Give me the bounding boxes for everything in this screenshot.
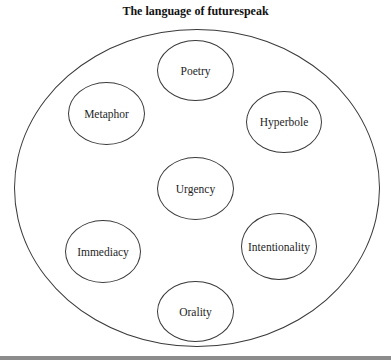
node-label: Orality xyxy=(179,306,212,318)
node-urgency: Urgency xyxy=(157,157,234,220)
diagram-title: The language of futurespeak xyxy=(0,3,391,19)
node-orality: Orality xyxy=(157,281,234,342)
node-label: Hyperbole xyxy=(260,116,309,128)
node-label: Immediacy xyxy=(77,246,129,258)
node-label: Urgency xyxy=(176,183,215,195)
node-label: Poetry xyxy=(180,65,210,77)
futurespeak-diagram: The language of futurespeak Poetry Metap… xyxy=(0,0,391,360)
node-label: Metaphor xyxy=(84,108,129,120)
bottom-divider xyxy=(0,356,391,360)
node-poetry: Poetry xyxy=(157,40,234,101)
node-immediacy: Immediacy xyxy=(65,220,141,283)
node-hyperbole: Hyperbole xyxy=(246,91,322,153)
node-label: Intentionality xyxy=(248,241,310,253)
node-intentionality: Intentionality xyxy=(241,213,317,280)
node-metaphor: Metaphor xyxy=(68,82,145,145)
